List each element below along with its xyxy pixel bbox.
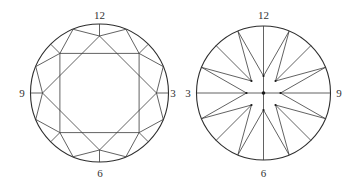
lower-girdle-line [202, 93, 247, 119]
left-diagram-crown-view [31, 24, 169, 162]
lower-girdle-line [202, 67, 252, 81]
lower-girdle-line [276, 31, 290, 81]
girdle-facet-line [73, 150, 99, 157]
pavilion-main-line [216, 46, 251, 81]
girdle-facet-line [36, 67, 43, 93]
right-label-top: 12 [258, 9, 269, 21]
girdle-facet-line [157, 67, 164, 93]
right-label-right: 9 [336, 87, 342, 99]
culet-dot [262, 91, 266, 95]
girdle-facet-line [100, 150, 126, 157]
lower-girdle-line [202, 67, 247, 93]
pavilion-main-line [276, 46, 311, 81]
left-label-top: 12 [94, 9, 105, 21]
girdle-facet-line [100, 29, 126, 36]
left-label-bottom: 6 [97, 167, 103, 179]
lower-girdle-line [202, 105, 252, 119]
girdle-facet-line [73, 29, 99, 36]
diagonal-tick-line [51, 44, 60, 53]
lower-girdle-line [238, 31, 264, 76]
facet-vertex-dot [250, 104, 252, 106]
facet-vertex-dot [262, 109, 264, 111]
facet-vertex-dot [245, 92, 247, 94]
left-label-right: 3 [170, 87, 176, 99]
lower-girdle-line [264, 31, 290, 76]
lower-girdle-line [264, 110, 290, 155]
lower-girdle-line [238, 110, 264, 155]
diamond-facet-diagrams: 12 3 6 9 12 9 6 3 [0, 0, 357, 182]
lower-girdle-line [276, 67, 326, 81]
diagonal-tick-line [139, 44, 148, 53]
lower-girdle-line [238, 105, 252, 155]
girdle-facet-line [157, 93, 164, 119]
facet-vertex-dot [250, 80, 252, 82]
facet-vertex-dot [262, 75, 264, 77]
right-label-bottom: 6 [261, 167, 267, 179]
lower-girdle-line [281, 67, 326, 93]
pavilion-main-line [216, 105, 251, 140]
left-label-left: 9 [19, 87, 25, 99]
facet-vertex-dot [279, 92, 281, 94]
lower-girdle-line [276, 105, 326, 119]
lower-girdle-line [238, 31, 252, 81]
diagram-canvas: 12 3 6 9 12 9 6 3 [0, 0, 357, 182]
facet-vertex-dot [274, 80, 276, 82]
diagonal-tick-line [139, 133, 148, 142]
facet-vertex-dot [274, 104, 276, 106]
diagonal-tick-line [51, 133, 60, 142]
pavilion-main-line [276, 105, 311, 140]
right-diagram-pavilion-view [197, 26, 331, 160]
lower-girdle-line [281, 93, 326, 119]
girdle-facet-line [36, 93, 43, 119]
lower-girdle-line [276, 105, 290, 155]
right-label-left: 3 [185, 87, 191, 99]
